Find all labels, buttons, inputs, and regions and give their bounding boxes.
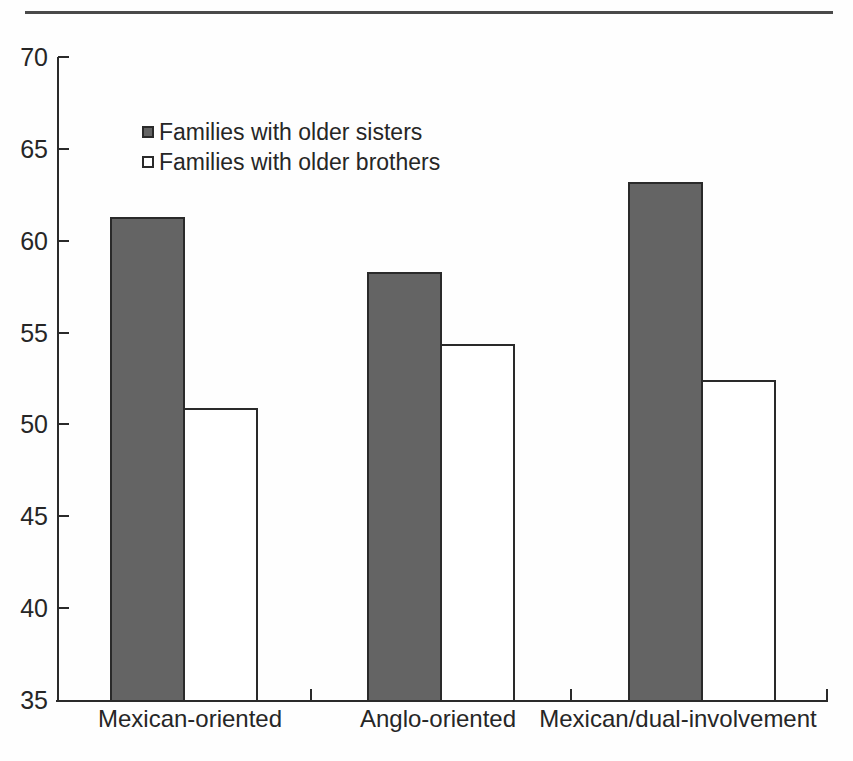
bar-brothers-anglo-oriented <box>440 344 515 702</box>
top-rule-divider <box>25 11 833 14</box>
y-axis-tick <box>58 332 69 334</box>
chart-legend: Families with older sisters Families wit… <box>142 117 440 177</box>
legend-swatch-brothers-icon <box>142 156 154 168</box>
y-tick-label: 50 <box>0 412 48 437</box>
legend-label-sisters: Families with older sisters <box>159 121 422 144</box>
bar-brothers-mexican-dual-involvement <box>701 380 776 702</box>
y-tick-label: 40 <box>0 596 48 621</box>
x-category-label: Mexican/dual-involvement <box>528 706 828 732</box>
legend-entry-sisters: Families with older sisters <box>142 117 440 147</box>
y-tick-label: 65 <box>0 137 48 162</box>
x-axis-tick <box>570 689 572 700</box>
y-axis-line <box>57 57 59 702</box>
y-axis-tick <box>58 240 69 242</box>
bar-sisters-mexican-oriented <box>110 217 185 702</box>
bar-chart-figure: 3540455055606570 Mexican-orientedAnglo-o… <box>0 0 853 761</box>
legend-label-brothers: Families with older brothers <box>159 151 440 174</box>
legend-swatch-sisters-icon <box>142 126 154 138</box>
legend-entry-brothers: Families with older brothers <box>142 147 440 177</box>
bar-sisters-mexican-dual-involvement <box>628 182 703 702</box>
y-axis-tick <box>58 515 69 517</box>
y-tick-label: 60 <box>0 229 48 254</box>
bar-brothers-mexican-oriented <box>183 408 258 702</box>
bar-sisters-anglo-oriented <box>367 272 442 702</box>
y-axis-tick <box>58 56 69 58</box>
y-axis-tick <box>58 148 69 150</box>
y-tick-label: 45 <box>0 504 48 529</box>
y-axis-tick <box>58 423 69 425</box>
x-axis-tick <box>310 689 312 700</box>
y-tick-label: 55 <box>0 321 48 346</box>
y-tick-label: 70 <box>0 45 48 70</box>
y-axis-tick <box>58 607 69 609</box>
x-axis-tick <box>826 689 828 700</box>
